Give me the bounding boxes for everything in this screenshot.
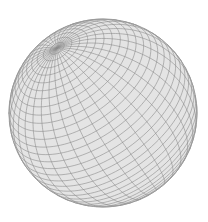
wireframe-sphere [0, 0, 208, 222]
